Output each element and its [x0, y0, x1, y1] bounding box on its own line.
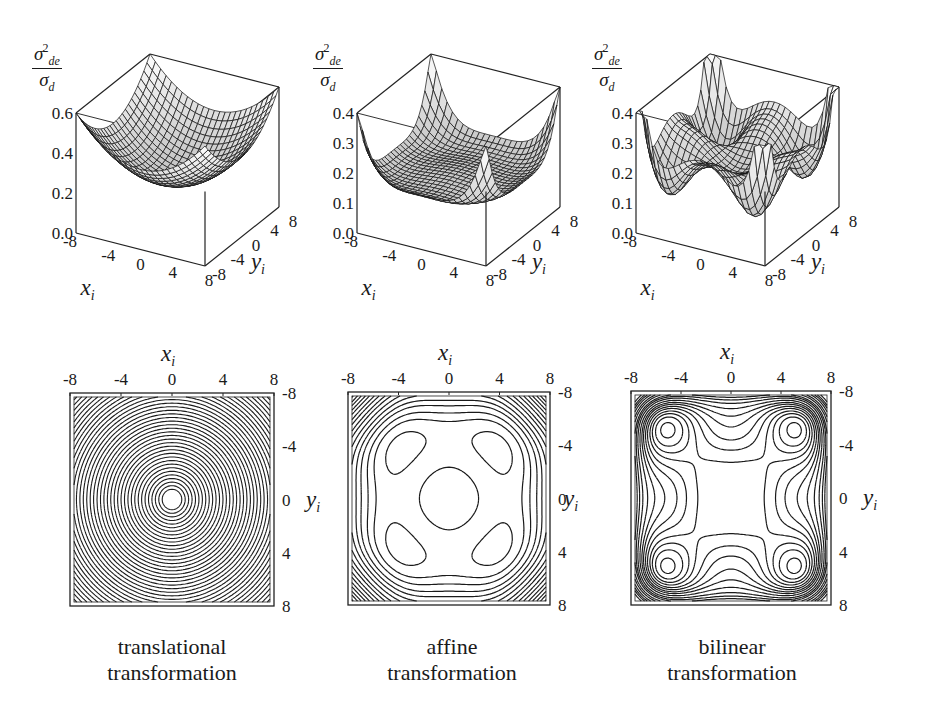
y-axis-label: yi [861, 485, 877, 513]
y-tick-label: 8 [839, 596, 848, 615]
y-tick-label: -8 [493, 265, 507, 284]
contour-lines: -8-4048-8-4048xiyi [562, 300, 872, 620]
y-tick-label: -4 [511, 250, 526, 269]
y-axis-label: yi [249, 249, 265, 277]
caption-affine: affine transformation [332, 634, 572, 686]
x-tick-label: -8 [341, 369, 355, 388]
x-axis-label: xi [437, 340, 452, 368]
y-tick-label: -8 [839, 382, 853, 401]
y-tick-label: -4 [230, 250, 245, 269]
x-tick-label: -4 [674, 368, 689, 387]
x-tick-label: 0 [445, 369, 454, 388]
z-tick-label: 0.2 [52, 184, 73, 203]
z-tick-label: 0.6 [52, 104, 73, 123]
caption-line: transformation [52, 660, 292, 686]
plot-frame [348, 392, 550, 605]
x-tick-label: -4 [661, 246, 676, 265]
z-tick-label: 0.1 [333, 194, 354, 213]
y-axis-label: yi [530, 249, 546, 277]
x-axis-label: xi [640, 275, 655, 303]
x-tick-label: 4 [169, 263, 178, 282]
z-tick-label: 0.3 [612, 134, 633, 153]
x-axis-label: xi [719, 339, 734, 367]
x-tick-label: -4 [382, 246, 397, 265]
z-tick-label: 0.4 [333, 104, 355, 123]
x-tick-label: -8 [624, 368, 638, 387]
z-tick-label: 0.4 [612, 104, 634, 123]
caption-line: transformation [612, 660, 852, 686]
y-tick-label: -8 [772, 265, 786, 284]
contour-plot-affine: -8-4048-8-4048xiyi [280, 300, 590, 620]
y-tick-label: -4 [790, 250, 805, 269]
x-tick-label: 0 [696, 255, 705, 274]
x-tick-label: 0 [727, 368, 736, 387]
x-tick-label: 4 [450, 263, 459, 282]
contour-plot-bilinear: -8-4048-8-4048xiyi [562, 300, 872, 620]
contour-lines: -8-4048-8-4048xiyi [0, 300, 310, 620]
x-tick-label: -8 [63, 370, 77, 389]
x-tick-label: 4 [729, 263, 738, 282]
contour-plot-translational: -8-4048-8-4048xiyi [0, 300, 310, 620]
y-tick-label: 8 [849, 212, 858, 231]
x-tick-label: -4 [114, 370, 129, 389]
caption-line: bilinear [612, 634, 852, 660]
z-axis-label: σ2de σd [592, 42, 622, 93]
x-tick-label: 4 [777, 368, 786, 387]
y-tick-label: -8 [212, 265, 226, 284]
y-tick-label: 4 [551, 221, 560, 240]
z-axis-label: σ2de σd [313, 42, 343, 93]
caption-line: transformation [332, 660, 572, 686]
x-axis-label: xi [80, 275, 95, 303]
z-tick-label: 0.3 [333, 134, 354, 153]
x-axis-label: xi [361, 275, 376, 303]
x-tick-label: -8 [623, 232, 637, 251]
z-tick-label: 0.2 [612, 164, 633, 183]
y-tick-label: 4 [839, 543, 848, 562]
z-tick-label: 0.1 [612, 194, 633, 213]
caption-line: translational [52, 634, 292, 660]
x-tick-label: -8 [63, 232, 77, 251]
x-tick-label: 8 [270, 370, 279, 389]
x-tick-label: -8 [344, 232, 358, 251]
x-tick-label: -4 [101, 246, 116, 265]
z-tick-label: 0.2 [333, 164, 354, 183]
z-axis-label: σ2de σd [32, 42, 62, 93]
x-tick-label: 8 [827, 368, 836, 387]
plot-frame [631, 391, 831, 605]
contour-lines: -8-4048-8-4048xiyi [280, 300, 590, 620]
caption-line: affine [332, 634, 572, 660]
y-axis-label: yi [809, 249, 825, 277]
x-tick-label: 4 [495, 369, 504, 388]
caption-translational: translational transformation [52, 634, 292, 686]
y-tick-label: 4 [270, 221, 279, 240]
y-tick-label: 0 [839, 489, 848, 508]
x-tick-label: 8 [546, 369, 555, 388]
x-tick-label: 0 [168, 370, 177, 389]
x-tick-label: 4 [219, 370, 228, 389]
caption-bilinear: bilinear transformation [612, 634, 852, 686]
x-tick-label: 0 [136, 255, 145, 274]
z-tick-label: 0.4 [52, 144, 74, 163]
x-axis-label: xi [160, 341, 175, 369]
y-tick-label: -4 [839, 436, 854, 455]
x-tick-label: -4 [391, 369, 406, 388]
y-tick-label: 4 [830, 221, 839, 240]
x-tick-label: 0 [417, 255, 426, 274]
